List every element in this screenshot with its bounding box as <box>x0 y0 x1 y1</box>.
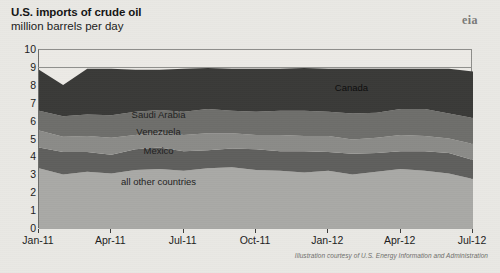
series-label-saudi-arabia: Saudi Arabia <box>132 109 186 120</box>
y-axis-label: 5 <box>0 133 36 145</box>
x-axis-tick <box>327 229 328 233</box>
x-axis-label: Jan-11 <box>22 234 53 246</box>
gridline-9 <box>38 67 472 68</box>
y-axis-label: 7 <box>0 97 36 109</box>
x-axis-tick <box>183 229 184 233</box>
page-title: U.S. imports of crude oil <box>11 6 141 18</box>
y-axis-label: 9 <box>0 61 36 73</box>
stacked-area-svg <box>39 50 473 229</box>
series-label-all-other-countries: all other countries <box>121 176 196 187</box>
series-label-canada: Canada <box>335 82 368 93</box>
x-axis-tick <box>38 229 39 233</box>
y-axis-label: 6 <box>0 115 36 127</box>
x-axis-label: Apr-11 <box>95 234 126 246</box>
eia-logo-text: eia <box>453 10 487 30</box>
x-axis-tick <box>400 229 401 233</box>
y-axis-label: 1 <box>0 204 36 216</box>
y-axis-label: 8 <box>0 79 36 91</box>
x-axis-label: Jan-12 <box>311 234 343 246</box>
chart-page: U.S. imports of crude oil million barrel… <box>0 0 500 273</box>
y-axis-label: 3 <box>0 168 36 180</box>
attribution-text: Illustration courtesy of U.S. Energy Inf… <box>295 252 488 259</box>
series-label-venezuela: Venezuela <box>136 126 180 137</box>
series-label-mexico: Mexico <box>144 145 174 156</box>
x-axis-label: Jul-11 <box>169 234 197 246</box>
y-axis-label: 4 <box>0 150 36 162</box>
x-axis-tick <box>472 229 473 233</box>
area-band-all-other-countries <box>39 167 473 229</box>
chart-subtitle: million barrels per day <box>11 20 124 32</box>
y-axis-label: 2 <box>0 186 36 198</box>
x-axis-tick <box>110 229 111 233</box>
y-axis-label: 10 <box>0 43 36 55</box>
x-axis-tick <box>255 229 256 233</box>
x-axis-label: Apr-12 <box>384 234 416 246</box>
x-axis-label: Oct-11 <box>240 234 271 246</box>
x-axis-label: Jul-12 <box>458 234 487 246</box>
y-axis-label: 0 <box>0 222 36 234</box>
eia-logo: eia <box>453 10 487 30</box>
chart-plot-area <box>38 49 472 228</box>
